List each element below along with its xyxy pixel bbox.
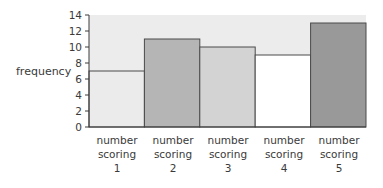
x-label-line: number	[89, 133, 145, 147]
frequency-bar-chart: 02468101214 frequency number scoring 1 n…	[0, 0, 383, 188]
x-label-line: number	[145, 133, 201, 147]
x-label-line: scoring	[311, 147, 367, 161]
bar-2	[144, 39, 199, 127]
y-tick-label: 8	[75, 57, 82, 69]
x-label-line: number	[200, 133, 256, 147]
x-label-line: 4	[256, 161, 312, 175]
y-tick-label: 12	[69, 25, 82, 37]
x-label-line: scoring	[89, 147, 145, 161]
bar-3	[200, 47, 255, 127]
x-label-line: scoring	[200, 147, 256, 161]
x-label-2: number scoring 2	[145, 133, 201, 175]
x-label-line: number	[311, 133, 367, 147]
y-tick-label: 0	[75, 121, 82, 133]
y-tick-label: 14	[69, 9, 83, 21]
bar-1	[89, 71, 144, 127]
bar-5	[311, 23, 366, 127]
y-tick-label: 6	[75, 73, 82, 85]
y-tick-label: 10	[69, 41, 82, 53]
x-label-line: number	[256, 133, 312, 147]
x-label-3: number scoring 3	[200, 133, 256, 175]
x-label-4: number scoring 4	[256, 133, 312, 175]
y-tick-label: 4	[75, 89, 82, 101]
y-tick-label: 2	[75, 105, 82, 117]
x-label-line: scoring	[145, 147, 201, 161]
x-label-line: 3	[200, 161, 256, 175]
x-label-line: 1	[89, 161, 145, 175]
x-label-line: scoring	[256, 147, 312, 161]
y-axis-label: frequency	[16, 65, 71, 78]
x-label-line: 5	[311, 161, 367, 175]
x-label-1: number scoring 1	[89, 133, 145, 175]
x-label-5: number scoring 5	[311, 133, 367, 175]
bar-4	[255, 55, 310, 127]
x-label-line: 2	[145, 161, 201, 175]
